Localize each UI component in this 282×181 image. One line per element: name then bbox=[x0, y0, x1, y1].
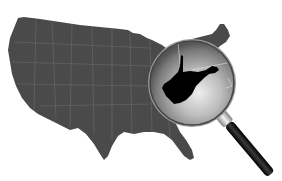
magnifier-handle bbox=[215, 109, 276, 178]
us-map-magnifier-illustration bbox=[0, 0, 282, 181]
magnifier-lens bbox=[148, 39, 236, 127]
